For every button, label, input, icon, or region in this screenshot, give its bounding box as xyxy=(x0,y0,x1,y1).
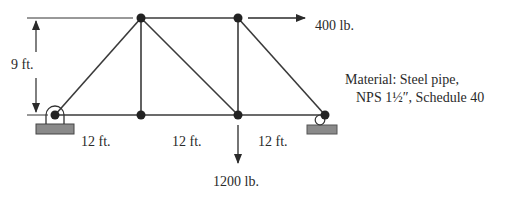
middle-diagonal xyxy=(141,18,238,115)
material-line-2: NPS 1½″, Schedule 40 xyxy=(356,91,484,105)
span-label-1: 12 ft. xyxy=(81,135,111,149)
roller-support-icon xyxy=(307,111,337,135)
pin-support-icon xyxy=(36,106,74,134)
span-label-2: 12 ft. xyxy=(172,135,202,149)
height-label: 9 ft. xyxy=(11,58,34,72)
vertical-load-label: 1200 lb. xyxy=(213,175,259,189)
material-line-1: Material: Steel pipe, xyxy=(345,73,459,87)
horizontal-load-label: 400 lb. xyxy=(315,19,354,33)
dimension-extension-lines xyxy=(27,18,133,115)
left-diagonal xyxy=(55,18,141,115)
truss-members xyxy=(55,18,325,115)
span-label-3: 12 ft. xyxy=(258,135,288,149)
right-diagonal xyxy=(238,18,325,115)
